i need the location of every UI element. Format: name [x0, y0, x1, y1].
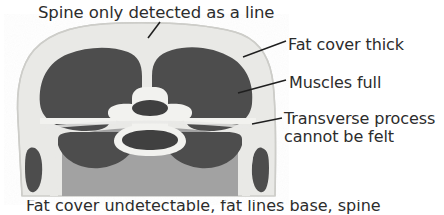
figure-caption: Fat cover undetectable, fat lines base, …	[0, 200, 444, 215]
vertebral-canal	[122, 130, 178, 150]
anatomical-diagram	[0, 0, 444, 215]
figure-caption-text: Fat cover undetectable, fat lines base, …	[26, 200, 381, 215]
annotation-transverse-process: Transverse process cannot be felt	[284, 110, 444, 145]
annotation-muscles-full: Muscles full	[289, 73, 381, 92]
annotation-fat-cover: Fat cover thick	[288, 35, 404, 54]
annotation-muscles-full-label: Muscles full	[289, 73, 381, 92]
title-annotation: Spine only detected as a line	[38, 3, 274, 22]
annotation-transverse-process-line1: Transverse process	[284, 109, 435, 128]
annotation-transverse-process-line2: cannot be felt	[284, 127, 394, 146]
